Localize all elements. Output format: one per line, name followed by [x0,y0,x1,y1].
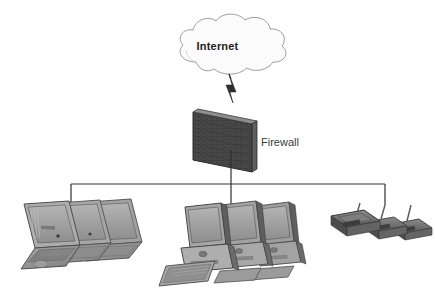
network-diagram: Internet Firewall [0,0,435,298]
firewall-icon [193,109,257,172]
access-point-item [331,203,380,236]
diagram-canvas [0,0,435,298]
laptop-group [21,199,142,269]
access-point-group [331,203,432,240]
lightning-connector [226,74,236,103]
laptop-item [21,201,80,269]
internet-cloud [180,14,286,74]
desktop-group [159,201,306,286]
